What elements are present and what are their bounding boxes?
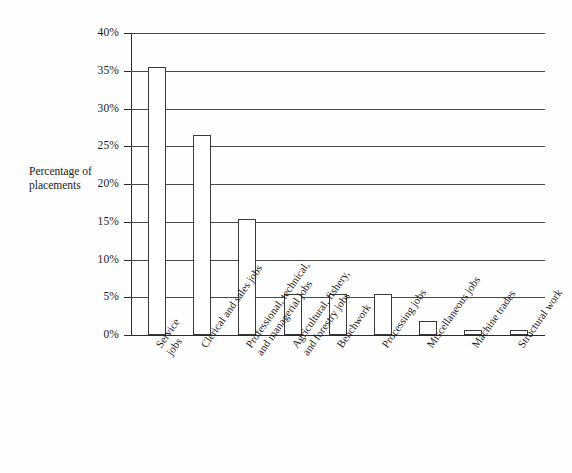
y-tick-mark-35% — [124, 71, 131, 72]
y-tick-mark-10% — [124, 260, 131, 261]
gridline-30% — [131, 109, 545, 110]
y-tick-label-20%: 20% — [71, 178, 119, 189]
y-tick-mark-30% — [124, 109, 131, 110]
gridline-40% — [131, 33, 545, 34]
y-tick-mark-0% — [124, 335, 131, 336]
bar-0 — [148, 67, 166, 335]
y-tick-label-40%: 40% — [71, 27, 119, 38]
y-tick-label-0%: 0% — [71, 329, 119, 340]
y-tick-mark-20% — [124, 184, 131, 185]
y-tick-mark-5% — [124, 297, 131, 298]
y-tick-mark-40% — [124, 33, 131, 34]
y-tick-label-5%: 5% — [71, 291, 119, 302]
gridline-35% — [131, 71, 545, 72]
y-tick-label-10%: 10% — [71, 254, 119, 265]
y-tick-label-30%: 30% — [71, 103, 119, 114]
bar-1 — [193, 135, 211, 335]
y-tick-mark-15% — [124, 222, 131, 223]
y-axis-title-line-1: Percentage of — [29, 164, 125, 178]
y-tick-label-35%: 35% — [71, 65, 119, 76]
y-tick-label-25%: 25% — [71, 140, 119, 151]
y-tick-mark-25% — [124, 146, 131, 147]
y-tick-label-15%: 15% — [71, 216, 119, 227]
chart-page: Percentage of placements 40%35%30%25%20%… — [0, 0, 572, 473]
